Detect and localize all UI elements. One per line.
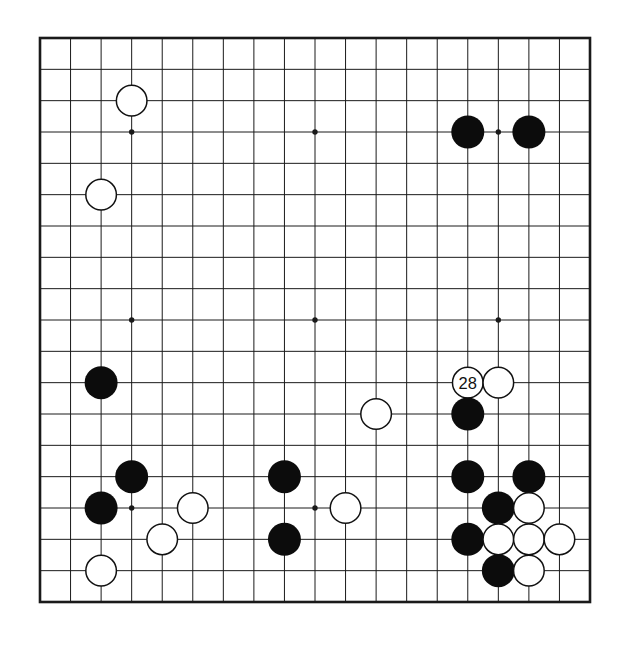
stone-circle <box>85 366 118 399</box>
star-point <box>129 505 134 510</box>
stone-black <box>512 116 545 149</box>
stone-white <box>86 555 117 586</box>
stone-black <box>115 460 148 493</box>
stone-circle <box>451 523 484 556</box>
stone-circle <box>451 460 484 493</box>
stone-circle <box>177 493 208 524</box>
stone-circle <box>514 524 545 555</box>
stone-black <box>451 398 484 431</box>
stone-circle <box>330 493 361 524</box>
stone-black <box>85 492 118 525</box>
go-diagram-page: 28 <box>0 0 626 646</box>
stone-black <box>482 492 515 525</box>
stone-white <box>86 179 117 210</box>
stone-circle <box>86 179 117 210</box>
stone-black <box>268 460 301 493</box>
go-board: 28 <box>0 0 626 646</box>
stone-circle <box>268 523 301 556</box>
star-point <box>129 317 134 322</box>
stone-circle <box>544 524 575 555</box>
stone-white <box>514 555 545 586</box>
star-point <box>129 129 134 134</box>
stone-circle <box>116 85 147 116</box>
stone-white <box>116 85 147 116</box>
stone-circle <box>512 116 545 149</box>
stone-white <box>544 524 575 555</box>
stone-circle <box>483 367 514 398</box>
star-point <box>496 129 501 134</box>
stone-circle <box>482 492 515 525</box>
stone-circle <box>482 554 515 587</box>
stone-black <box>482 554 515 587</box>
stone-circle <box>451 398 484 431</box>
stone-circle <box>512 460 545 493</box>
stone-white <box>330 493 361 524</box>
star-point <box>312 505 317 510</box>
stone-black <box>451 460 484 493</box>
stone-circle <box>514 493 545 524</box>
star-point <box>496 317 501 322</box>
stone-white <box>147 524 178 555</box>
stone-black <box>451 116 484 149</box>
stone-circle <box>268 460 301 493</box>
stone-move-label: 28 <box>459 374 477 392</box>
stone-white <box>514 493 545 524</box>
stone-circle <box>483 524 514 555</box>
stone-white <box>177 493 208 524</box>
stone-circle <box>85 492 118 525</box>
stone-circle <box>514 555 545 586</box>
stone-black <box>85 366 118 399</box>
stone-black <box>451 523 484 556</box>
stone-circle <box>86 555 117 586</box>
stone-circle <box>147 524 178 555</box>
stone-white <box>483 524 514 555</box>
stone-white <box>483 367 514 398</box>
stone-circle <box>115 460 148 493</box>
star-point <box>312 317 317 322</box>
stone-black <box>512 460 545 493</box>
stone-white <box>361 399 392 430</box>
stone-white <box>514 524 545 555</box>
stone-circle <box>361 399 392 430</box>
stone-black <box>268 523 301 556</box>
stone-white: 28 <box>452 367 483 398</box>
star-point <box>312 129 317 134</box>
stone-circle <box>451 116 484 149</box>
